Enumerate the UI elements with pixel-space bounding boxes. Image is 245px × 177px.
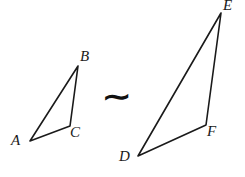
geometry-figure: A B C D E F ∼ [0, 0, 245, 177]
vertex-label-a: A [11, 133, 20, 148]
vertex-label-c: C [70, 125, 80, 140]
vertex-label-f: F [207, 124, 216, 139]
vertex-label-d: D [119, 149, 130, 164]
vertex-label-e: E [223, 0, 232, 13]
vertex-label-b: B [80, 49, 89, 64]
similarity-symbol: ∼ [102, 83, 131, 111]
